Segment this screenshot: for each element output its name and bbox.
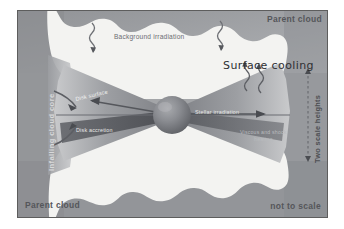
label-parent-cloud-top-right: Parent cloud — [267, 15, 322, 24]
label-disk-accretion: Disk accretion — [76, 128, 113, 134]
label-background-irradiation: Background irradiation — [114, 34, 184, 41]
diagram-frame: Parent cloud Parent cloud not to scale B… — [18, 11, 327, 217]
label-parent-cloud-bottom-left: Parent cloud — [25, 201, 80, 210]
protostar-highlight — [158, 102, 172, 112]
label-not-to-scale: not to scale — [270, 202, 321, 211]
label-viscous-shock-heating: Viscous and shock heating — [240, 129, 287, 142]
label-infalling-cloud-core: Infalling cloud core — [48, 93, 56, 171]
label-surface-cooling: Surface cooling — [223, 60, 314, 72]
label-two-scale-heights: Two scale heights — [314, 95, 322, 163]
protostar-sphere — [153, 96, 191, 134]
label-viscous-shock-heating-line1: Viscous and shock — [240, 129, 287, 136]
diagram-canvas — [18, 11, 327, 217]
label-viscous-shock-heating-line2: heating — [240, 136, 287, 143]
label-stellar-irradiation: Stellar irradiation — [195, 110, 239, 116]
figure-root: Parent cloud Parent cloud not to scale B… — [0, 0, 344, 229]
